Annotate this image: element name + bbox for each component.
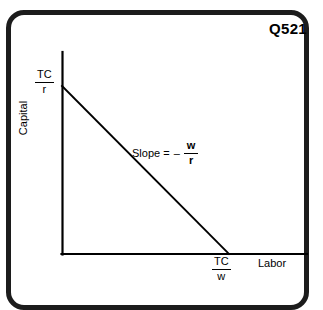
slope-fraction-numerator: w — [184, 140, 199, 154]
y-intercept-denominator: r — [35, 83, 54, 96]
slope-annotation: Slope = – w r — [132, 140, 198, 167]
x-intercept-denominator: w — [212, 270, 231, 283]
slope-annotation-text: Slope = — [132, 148, 170, 159]
slope-fraction: w r — [184, 140, 199, 167]
slope-minus-sign: – — [173, 148, 181, 159]
x-intercept-label: TC w — [212, 256, 231, 283]
x-intercept-numerator: TC — [212, 256, 231, 270]
x-axis-title: Labor — [258, 257, 286, 269]
y-intercept-label: TC r — [35, 69, 54, 96]
y-axis-title: Capital — [17, 88, 29, 148]
y-intercept-numerator: TC — [35, 69, 54, 83]
isocost-line — [62, 86, 229, 254]
slope-fraction-denominator: r — [184, 154, 199, 167]
